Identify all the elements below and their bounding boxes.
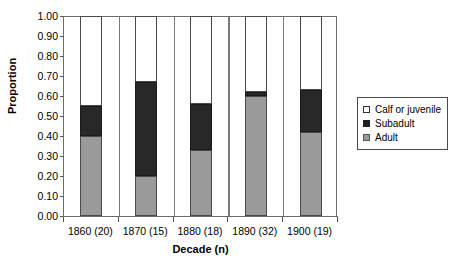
y-tick-label: 0.50 — [26, 111, 58, 121]
y-tick-label: 0.10 — [26, 191, 58, 201]
bar-segment-calf-or-juvenile[interactable] — [80, 16, 102, 106]
bar-stack — [135, 16, 157, 216]
y-tick-label: 0.80 — [26, 51, 58, 61]
bar-group[interactable] — [80, 16, 102, 216]
category-separator-line — [174, 17, 175, 217]
black-square-icon — [363, 120, 370, 127]
white-square-icon — [363, 106, 370, 113]
bar-segment-adult[interactable] — [80, 136, 102, 216]
bar-segment-adult[interactable] — [135, 176, 157, 216]
legend-item[interactable]: Adult — [363, 130, 441, 144]
bar-segment-subadult[interactable] — [80, 106, 102, 136]
category-separator-line — [228, 17, 229, 217]
y-tick-label: 0.00 — [26, 211, 58, 221]
y-tick-label: 0.60 — [26, 91, 58, 101]
bar-stack — [300, 16, 322, 216]
y-axis-title: Proportion — [6, 36, 18, 136]
y-tick-label: 0.40 — [26, 131, 58, 141]
x-tick-mark — [118, 217, 119, 222]
x-tick-label: 1900 (19) — [265, 225, 355, 237]
y-tick-label: 0.20 — [26, 171, 58, 181]
bar-segment-subadult[interactable] — [300, 90, 322, 132]
bar-group[interactable] — [135, 16, 157, 216]
x-tick-mark — [63, 217, 64, 222]
bar-group[interactable] — [245, 16, 267, 216]
category-separator-line — [283, 17, 284, 217]
legend-item[interactable]: Calf or juvenile — [363, 102, 441, 116]
bar-stack — [80, 16, 102, 216]
bar-segment-calf-or-juvenile[interactable] — [245, 16, 267, 92]
x-axis-title: Decade (n) — [63, 243, 338, 255]
legend-item-label: Subadult — [375, 118, 414, 129]
x-tick-mark — [337, 217, 338, 222]
bar-segment-subadult[interactable] — [190, 104, 212, 150]
bar-segment-adult[interactable] — [245, 96, 267, 216]
legend-item-label: Calf or juvenile — [375, 104, 441, 115]
plot-area — [63, 16, 337, 216]
bar-segment-subadult[interactable] — [135, 82, 157, 176]
bar-segment-adult[interactable] — [190, 150, 212, 216]
bar-segment-adult[interactable] — [300, 132, 322, 216]
y-tick-label: 0.70 — [26, 71, 58, 81]
x-tick-mark — [282, 217, 283, 222]
bar-segment-calf-or-juvenile[interactable] — [190, 16, 212, 104]
y-tick-label: 0.90 — [26, 31, 58, 41]
chart-legend: Calf or juvenileSubadultAdult — [357, 97, 448, 150]
legend-item[interactable]: Subadult — [363, 116, 441, 130]
bar-group[interactable] — [300, 16, 322, 216]
x-tick-mark — [173, 217, 174, 222]
bar-segment-calf-or-juvenile[interactable] — [300, 16, 322, 90]
x-axis-line — [63, 216, 338, 217]
bar-group[interactable] — [190, 16, 212, 216]
bar-segment-calf-or-juvenile[interactable] — [135, 16, 157, 82]
stacked-bar-chart: Proportion 0.000.100.200.300.400.500.600… — [0, 0, 460, 275]
bar-stack — [190, 16, 212, 216]
legend-item-label: Adult — [375, 132, 398, 143]
bar-stack — [245, 16, 267, 216]
y-axis-tick-labels: 0.000.100.200.300.400.500.600.700.800.90… — [26, 16, 58, 216]
plot-right-border — [336, 16, 337, 217]
y-tick-label: 0.30 — [26, 151, 58, 161]
gray-square-icon — [363, 134, 370, 141]
y-tick-label: 1.00 — [26, 11, 58, 21]
x-tick-mark — [227, 217, 228, 222]
category-separator-line — [119, 17, 120, 217]
